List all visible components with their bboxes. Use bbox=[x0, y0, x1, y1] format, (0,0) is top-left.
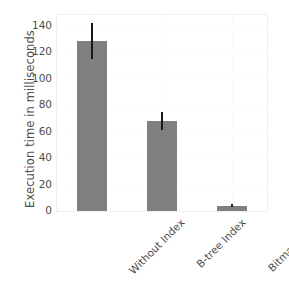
y-axis-tick-label: 0 bbox=[18, 204, 52, 216]
bar-group bbox=[147, 15, 177, 211]
x-axis-tick-label: Without Index bbox=[126, 216, 186, 276]
y-axis-tick-label: 60 bbox=[18, 125, 52, 137]
bar-group bbox=[77, 15, 107, 211]
bar-chart-figure: Execution time in milliseconds 020406080… bbox=[0, 0, 289, 294]
y-axis-tick-label: 20 bbox=[18, 178, 52, 190]
y-axis-tick-label: 100 bbox=[18, 72, 52, 84]
x-axis-tick-label: B-tree Index bbox=[194, 216, 248, 270]
plot-area bbox=[56, 14, 268, 212]
y-axis-tick-label: 120 bbox=[18, 45, 52, 57]
bar bbox=[77, 41, 107, 211]
y-axis-tick-labels: 020406080100120140 bbox=[14, 0, 52, 294]
error-bar bbox=[91, 23, 92, 59]
y-axis-tick-label: 140 bbox=[18, 19, 52, 31]
error-bar bbox=[161, 112, 162, 129]
bar-group bbox=[217, 15, 247, 211]
y-axis-tick-label: 40 bbox=[18, 151, 52, 163]
y-axis-tick-label: 80 bbox=[18, 98, 52, 110]
x-axis-tick-label: Bitmap Index bbox=[265, 216, 289, 274]
error-bar bbox=[231, 204, 232, 207]
bar bbox=[147, 121, 177, 211]
